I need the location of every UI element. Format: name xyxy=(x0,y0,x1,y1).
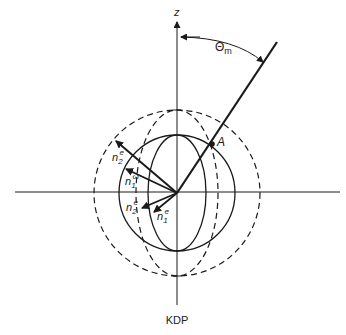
theta-label: Θm xyxy=(215,40,232,56)
vector-n2e-lower xyxy=(142,193,177,208)
point-a-dot xyxy=(209,141,215,147)
point-a-label: A xyxy=(216,135,225,149)
label-n2e-upper: n2e xyxy=(112,148,125,166)
phase-matching-line xyxy=(177,42,277,193)
caption-kdp: KDP xyxy=(166,314,189,326)
z-axis-label: z xyxy=(173,6,180,18)
label-n2e-lower: n2e xyxy=(126,198,139,216)
index-surface-diagram: A Θm z n2e n1ω n2e n1e KDP xyxy=(0,0,346,335)
label-n1e: n1e xyxy=(157,207,170,225)
